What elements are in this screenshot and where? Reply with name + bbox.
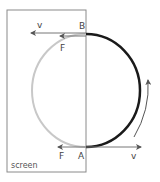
hidden-arc [32,34,86,147]
point-a-label: A [78,151,85,161]
circular-motion-diagram: v B F F A v screen [0,0,160,182]
visible-arc [86,34,140,147]
screen-label: screen [11,161,38,170]
point-b-label: B [79,21,85,31]
top-force-label: F [60,43,65,53]
bottom-velocity-label: v [131,151,137,161]
top-velocity-label: v [37,20,43,30]
bottom-force-label: F [59,151,64,161]
